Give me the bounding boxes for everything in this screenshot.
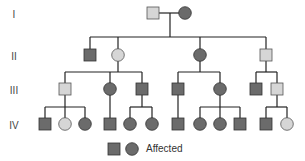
female-unaffected-symbol <box>281 118 294 131</box>
pedigree-chart: IIIIIIIV Affected <box>0 0 305 161</box>
male-unaffected-symbol <box>59 83 71 95</box>
male-affected-symbol <box>234 118 246 130</box>
male-affected-symbol <box>172 118 184 130</box>
male-affected-symbol <box>260 118 272 130</box>
female-unaffected-symbol <box>59 118 72 131</box>
female-affected-symbol <box>104 83 117 96</box>
female-affected-symbol <box>214 83 227 96</box>
female-affected-symbol <box>79 118 92 131</box>
female-affected-symbol <box>146 118 159 131</box>
male-unaffected-symbol <box>147 7 159 19</box>
male-affected-symbol <box>136 83 148 95</box>
female-affected-symbol <box>214 118 227 131</box>
legend-affected-square <box>108 143 120 155</box>
male-affected-symbol <box>39 118 51 130</box>
female-affected-symbol <box>124 118 137 131</box>
female-affected-symbol <box>194 118 207 131</box>
male-affected-symbol <box>84 49 96 61</box>
pedigree-svg <box>0 0 305 161</box>
legend-affected-circle <box>126 143 139 156</box>
female-affected-symbol <box>179 7 192 20</box>
male-affected-symbol <box>172 83 184 95</box>
female-affected-symbol <box>194 49 207 62</box>
generation-label-III: III <box>10 85 18 96</box>
legend-label: Affected <box>146 143 183 154</box>
male-unaffected-symbol <box>260 49 272 61</box>
generation-label-II: II <box>11 51 17 62</box>
male-affected-symbol <box>104 118 116 130</box>
generation-label-I: I <box>13 9 16 20</box>
male-unaffected-symbol <box>271 83 283 95</box>
generation-label-IV: IV <box>9 120 18 131</box>
male-affected-symbol <box>250 83 262 95</box>
female-unaffected-symbol <box>112 49 125 62</box>
